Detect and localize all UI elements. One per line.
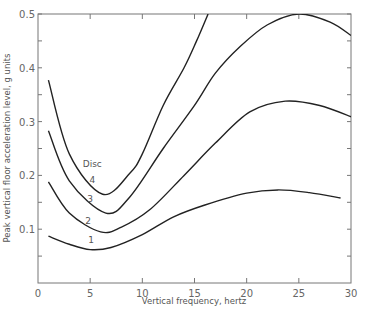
y-axis-label: Peak vertical floor acceleration level, … [2,53,12,242]
x-tick-label: 25 [292,288,305,299]
acceleration-frequency-chart: 0510152025300.10.20.30.40.5 Disc4321 Ver… [0,0,368,315]
x-tick-label: 0 [35,288,41,299]
y-tick-label: 0.4 [19,63,35,74]
curve-annotation: 4 [89,175,95,185]
curve-annotation: Disc [83,159,102,169]
y-tick-label: 0.3 [19,117,35,128]
plot-frame [38,14,351,283]
y-tick-label: 0.2 [19,170,35,181]
curve-annotation: 3 [87,194,93,204]
curve-annotation: 1 [88,235,94,245]
x-tick-label: 5 [87,288,93,299]
y-tick-label: 0.1 [19,224,35,235]
curve-annotation: 2 [85,216,91,226]
x-tick-label: 30 [345,288,358,299]
curves [48,14,351,250]
x-axis-label: Vertical frequency, hertz [142,296,247,306]
curve-disc-4 [48,14,208,195]
y-tick-label: 0.5 [19,9,35,20]
plot-axes [38,14,351,283]
